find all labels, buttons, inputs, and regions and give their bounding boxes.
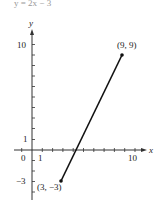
x-axis-arrow-icon xyxy=(141,148,147,152)
y-axis-label: y xyxy=(28,18,33,28)
start-point-label: (3, −3) xyxy=(37,182,62,192)
y-axis-arrow-icon xyxy=(30,29,34,35)
x-origin-label: 0 xyxy=(21,153,26,163)
x-tick-10-label: 10 xyxy=(128,153,138,163)
line-segment xyxy=(61,55,122,181)
equation-fragment: y = 2x − 3 xyxy=(14,0,52,8)
end-point xyxy=(120,53,124,57)
end-point-label: (9, 9) xyxy=(117,40,137,50)
x-axis-label: x xyxy=(148,145,153,155)
y-tick-1-label: 1 xyxy=(23,134,28,144)
x-tick-1-label: 1 xyxy=(38,153,43,163)
y-tick-10-label: 10 xyxy=(17,40,27,50)
y-tick-neg3-label: −3 xyxy=(16,176,26,186)
chart: y = 2x − 3 y x 0 1 10 10 xyxy=(0,0,159,203)
